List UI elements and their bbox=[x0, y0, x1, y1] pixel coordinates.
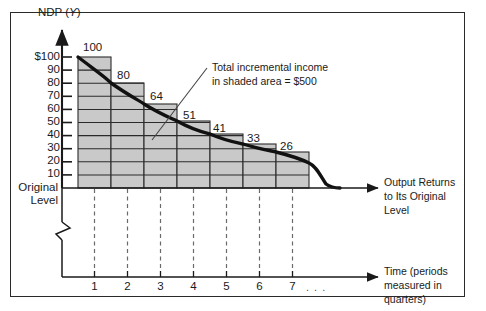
data-point-label: 64 bbox=[150, 90, 163, 102]
x-tick-label: 4 bbox=[187, 280, 201, 292]
chart-figure: NDP (Y) $100 90 80 70 60 50 40 30 20 10 … bbox=[0, 0, 486, 311]
output-returns-line3: Level bbox=[384, 203, 455, 217]
period-drop-lines bbox=[95, 189, 293, 271]
time-axis-annotation: Time (periods measured in quarters) bbox=[384, 264, 448, 307]
time-axis-line2: measured in bbox=[384, 278, 448, 292]
time-axis-line3: quarters) bbox=[384, 292, 448, 306]
x-axis-ticks bbox=[95, 271, 293, 277]
x-tick-label: 1 bbox=[88, 280, 102, 292]
y-axis-ticks bbox=[62, 57, 72, 175]
shaded-area-annotation: Total incremental income in shaded area … bbox=[212, 60, 328, 88]
data-point-label: 41 bbox=[213, 122, 226, 134]
x-tick-label: 5 bbox=[220, 280, 234, 292]
output-returns-line1: Output Returns bbox=[384, 175, 455, 189]
x-tick-label: 2 bbox=[121, 280, 135, 292]
output-returns-line2: to Its Original bbox=[384, 189, 455, 203]
x-tick-label: 6 bbox=[253, 280, 267, 292]
data-point-label: 51 bbox=[183, 109, 196, 121]
data-point-label: 100 bbox=[83, 41, 102, 53]
x-tick-label: 7 bbox=[286, 280, 300, 292]
output-returns-annotation: Output Returns to Its Original Level bbox=[384, 175, 455, 218]
time-axis-line1: Time (periods bbox=[384, 264, 448, 278]
data-point-label: 26 bbox=[280, 140, 293, 152]
data-point-label: 33 bbox=[247, 132, 260, 144]
x-axis-ellipsis: . . . bbox=[306, 281, 326, 294]
data-point-label: 80 bbox=[117, 69, 130, 81]
shaded-area-annotation-line2: in shaded area = $500 bbox=[212, 74, 328, 88]
x-tick-label: 3 bbox=[154, 280, 168, 292]
shaded-area-annotation-line1: Total incremental income bbox=[212, 60, 328, 74]
axis-break-zigzag bbox=[56, 188, 70, 277]
